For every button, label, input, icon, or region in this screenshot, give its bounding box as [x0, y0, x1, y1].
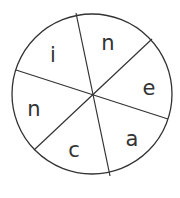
segment-letter-top-right: n: [101, 31, 114, 55]
segment-letter-left: n: [27, 97, 40, 121]
segment-letter-top-left: i: [50, 43, 56, 67]
segment-letter-bottom-left: c: [68, 138, 80, 162]
segment-letter-right: e: [143, 76, 156, 100]
letter-wheel: n e a c n i: [0, 0, 180, 198]
segment-letter-bottom-right: a: [126, 127, 139, 151]
